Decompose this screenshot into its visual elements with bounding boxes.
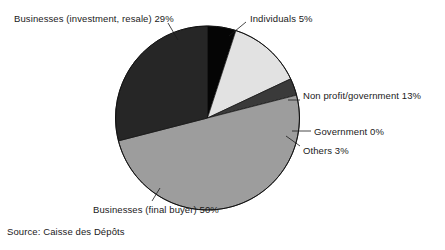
pie-chart-canvas	[0, 0, 445, 250]
slice-label-government: Government 0%	[314, 126, 384, 138]
slice-label-others: Others 3%	[303, 145, 349, 157]
slice-label-nonprofit-government: Non profit/government 13%	[303, 90, 421, 102]
source-note: Source: Caisse des Dépôts	[7, 226, 125, 237]
slice-label-individuals: Individuals 5%	[250, 13, 313, 25]
pie-slice-group	[115, 26, 299, 210]
pie-chart-figure: Businesses (investment, resale) 29% Indi…	[0, 0, 445, 250]
slice-label-businesses-investment-resale: Businesses (investment, resale) 29%	[14, 13, 174, 25]
slice-label-businesses-final-buyer: Businesses (final buyer) 50%	[93, 204, 219, 216]
